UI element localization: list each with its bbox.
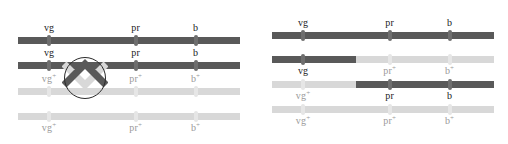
locus-marker-b	[194, 35, 198, 46]
chromatid-left-row-2	[18, 62, 240, 69]
chromatid-segment-light	[272, 106, 494, 113]
allele-label-pr: pr	[385, 91, 394, 101]
allele-label-pr: pr	[131, 48, 140, 58]
chromatid-left-row-4	[18, 113, 240, 120]
locus-marker-vg	[47, 35, 51, 46]
chromatid-segment-light	[18, 113, 240, 120]
chromatid-right-row-2	[272, 56, 494, 63]
chromatid-right-row-4	[272, 106, 494, 113]
locus-marker-b	[448, 30, 452, 41]
locus-marker-b	[194, 86, 198, 97]
allele-label-b-plus: b+	[191, 74, 200, 84]
allele-label-b: b	[447, 91, 452, 101]
allele-label-pr: pr	[385, 18, 394, 28]
locus-marker-pr	[134, 60, 138, 71]
allele-label-pr-plus: pr+	[383, 66, 396, 76]
allele-label-b: b	[193, 48, 198, 58]
chromatid-segment-dark	[272, 56, 356, 63]
figure-canvas: vgprbvgprbvg+pr+b+vg+pr+b+ vgprbvgpr+b+v…	[0, 0, 508, 144]
locus-marker-vg	[47, 60, 51, 71]
chromatid-segment-light	[272, 81, 356, 88]
locus-marker-pr	[388, 79, 392, 90]
allele-label-vg-plus: vg+	[296, 91, 311, 101]
allele-label-b-plus: b+	[445, 66, 454, 76]
allele-label-pr-plus: pr+	[129, 123, 142, 133]
chromatid-segment-dark	[18, 62, 240, 69]
chromatid-right-row-1	[272, 32, 494, 39]
locus-marker-pr	[134, 86, 138, 97]
chromatid-segment-light	[356, 56, 494, 63]
allele-label-pr-plus: pr+	[383, 116, 396, 126]
locus-marker-vg	[301, 79, 305, 90]
allele-label-pr: pr	[131, 23, 140, 33]
locus-marker-pr	[134, 35, 138, 46]
allele-label-b: b	[193, 23, 198, 33]
allele-label-b: b	[447, 18, 452, 28]
left-panel: vgprbvgprbvg+pr+b+vg+pr+b+	[0, 0, 254, 144]
locus-marker-vg	[301, 30, 305, 41]
allele-label-b-plus: b+	[191, 123, 200, 133]
allele-label-vg: vg	[44, 23, 54, 33]
locus-marker-vg	[47, 111, 51, 122]
allele-label-vg-plus: vg+	[42, 123, 57, 133]
allele-label-vg-plus: vg+	[42, 74, 57, 84]
chromatid-left-row-1	[18, 37, 240, 44]
chromatid-right-row-3	[272, 81, 494, 88]
locus-marker-vg	[301, 104, 305, 115]
allele-label-b-plus: b+	[445, 116, 454, 126]
chromatid-segment-dark	[18, 37, 240, 44]
chromatid-left-row-3	[18, 88, 240, 95]
chromatid-segment-light	[18, 88, 240, 95]
allele-label-vg: vg	[298, 18, 308, 28]
chromatid-segment-dark	[272, 32, 494, 39]
locus-marker-pr	[388, 30, 392, 41]
locus-marker-b	[194, 60, 198, 71]
allele-label-pr-plus: pr+	[129, 74, 142, 84]
locus-marker-b	[448, 79, 452, 90]
allele-label-vg: vg	[44, 48, 54, 58]
locus-marker-vg	[301, 54, 305, 65]
right-panel: vgprbvgpr+b+vg+prbvg+pr+b+	[254, 0, 508, 144]
chromatid-segment-dark	[356, 81, 494, 88]
allele-label-vg-plus: vg+	[296, 116, 311, 126]
crossover-highlight-circle	[64, 57, 106, 99]
allele-label-vg: vg	[298, 66, 308, 76]
locus-marker-vg	[47, 86, 51, 97]
